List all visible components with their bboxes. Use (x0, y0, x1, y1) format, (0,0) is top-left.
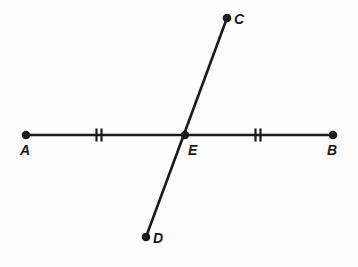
point-e-dot (181, 131, 189, 139)
point-d-dot (142, 233, 151, 242)
point-a-label: A (20, 143, 30, 157)
point-b-label: B (327, 143, 337, 157)
point-b-dot (329, 131, 338, 140)
point-c-dot (223, 14, 232, 23)
point-e-label: E (188, 143, 197, 157)
segment-cd (146, 18, 227, 237)
point-d-label: D (153, 231, 163, 245)
geometry-figure: A B C D E (0, 0, 358, 267)
point-c-label: C (234, 12, 244, 26)
geometry-canvas (0, 0, 358, 267)
point-a-dot (22, 131, 31, 140)
